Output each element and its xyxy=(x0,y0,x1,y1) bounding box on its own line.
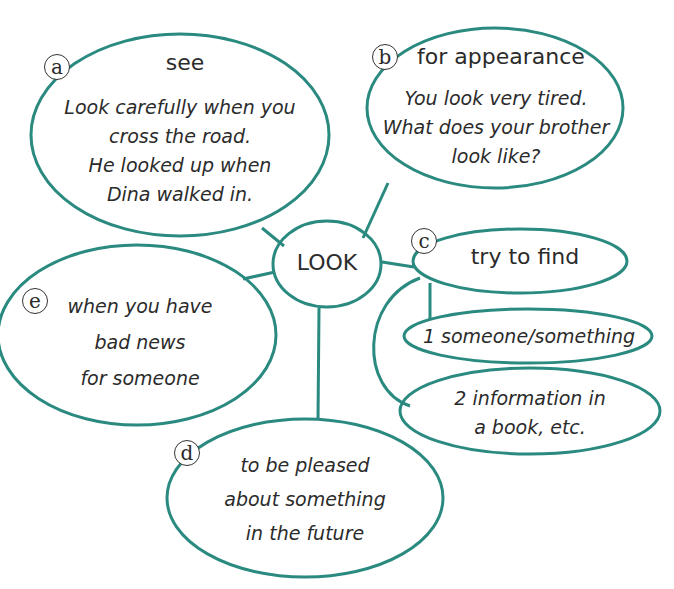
mind-map-diagram: a see Look carefully when you cross the … xyxy=(0,0,674,589)
example-line: 2 information in xyxy=(410,384,650,413)
example-line: What does your brother xyxy=(365,113,627,142)
meaning-line: to be pleased xyxy=(205,448,405,482)
connector-b xyxy=(363,183,388,238)
meaning-line: for someone xyxy=(40,360,240,396)
connector-d xyxy=(318,308,319,420)
node-e-meaning: when you have bad news for someone xyxy=(40,288,240,396)
example-line: a book, etc. xyxy=(410,413,650,442)
badge-d: d xyxy=(174,440,200,466)
node-b-heading: for appearance xyxy=(396,44,606,69)
badge-a: a xyxy=(44,54,70,80)
example-line: cross the road. xyxy=(30,122,330,151)
example-line: Dina walked in. xyxy=(30,180,330,209)
example-line: Look carefully when you xyxy=(30,93,330,122)
center-label: LOOK xyxy=(273,250,381,275)
example-line: You look very tired. xyxy=(365,84,627,113)
node-d-meaning: to be pleased about something in the fut… xyxy=(205,448,405,550)
connector-e xyxy=(243,272,275,279)
node-a-examples: Look carefully when you cross the road. … xyxy=(30,93,330,209)
node-c-heading: try to find xyxy=(440,244,610,269)
meaning-line: bad news xyxy=(40,324,240,360)
meaning-line: when you have xyxy=(40,288,240,324)
node-b-examples: You look very tired. What does your brot… xyxy=(365,84,627,171)
node-a-heading: see xyxy=(100,50,270,75)
meaning-line: in the future xyxy=(205,516,405,550)
badge-c: c xyxy=(411,228,437,254)
node-c-sub-2: 2 information in a book, etc. xyxy=(410,384,650,442)
connector-c xyxy=(382,262,414,267)
example-line: look like? xyxy=(365,142,627,171)
badge-b: b xyxy=(372,44,398,70)
meaning-line: about something xyxy=(205,482,405,516)
example-line: He looked up when xyxy=(30,151,330,180)
node-c-sub-1: 1 someone/something xyxy=(404,322,654,351)
